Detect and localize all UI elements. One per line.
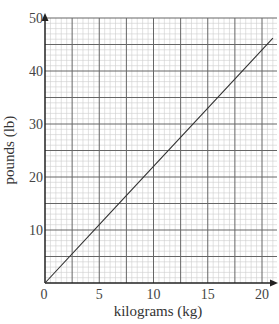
x-tick-label: 20	[255, 287, 269, 302]
y-tick-label: 50	[29, 11, 43, 26]
x-axis-label: kilograms (kg)	[114, 303, 203, 320]
y-tick-labels: 1020304050	[29, 11, 43, 238]
y-tick-label: 20	[29, 170, 43, 185]
x-tick-labels: 05101520	[41, 287, 270, 302]
x-tick-label: 0	[41, 287, 48, 302]
y-tick-label: 10	[29, 223, 43, 238]
major-grid	[45, 18, 277, 283]
x-tick-label: 5	[96, 287, 103, 302]
x-axis-arrow-icon	[270, 280, 278, 287]
axes	[42, 13, 279, 287]
y-axis-label: pounds (lb)	[1, 116, 18, 185]
x-tick-label: 15	[201, 287, 215, 302]
y-tick-label: 40	[29, 64, 43, 79]
x-tick-label: 10	[147, 287, 161, 302]
conversion-graph: 05101520 1020304050 kilograms (kg) pound…	[0, 0, 279, 324]
y-tick-label: 30	[29, 117, 43, 132]
